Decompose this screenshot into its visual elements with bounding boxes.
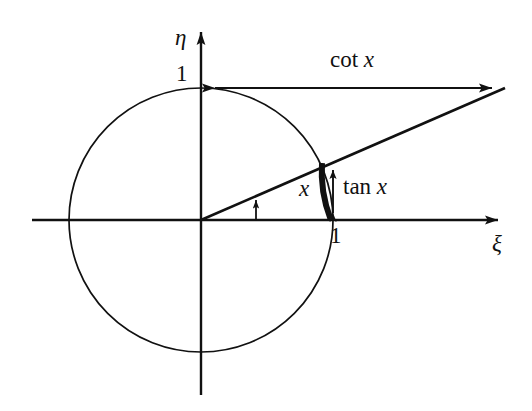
eta-axis-label: η <box>175 26 186 49</box>
tick-label-one-eta: 1 <box>176 62 188 85</box>
tan-variable: x <box>377 174 387 199</box>
trigonometry-unit-circle-figure: η ξ 1 1 cot x tan x x <box>0 0 532 411</box>
cot-variable: x <box>364 47 374 72</box>
tan-x-label: tan x <box>343 175 387 198</box>
xi-axis-label: ξ <box>492 232 502 255</box>
diagram-canvas <box>0 0 532 411</box>
tick-label-one-xi: 1 <box>330 224 342 247</box>
tan-function-name: tan <box>343 174 371 199</box>
terminal-ray-line <box>201 88 505 220</box>
arc-length-x-label: x <box>299 177 309 200</box>
cot-x-label: cot x <box>330 48 374 71</box>
cot-function-name: cot <box>330 47 358 72</box>
